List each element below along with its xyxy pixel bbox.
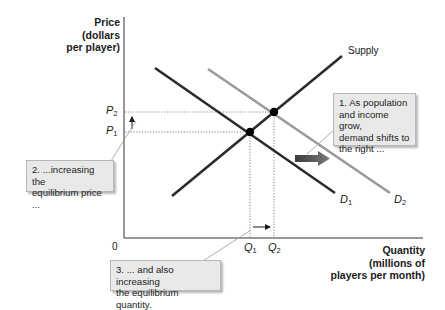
callout-line: demand shifts to xyxy=(339,132,410,144)
q2-letter: Q xyxy=(268,241,277,253)
y-title-line: (dollars xyxy=(58,29,120,42)
p1-sub: 1 xyxy=(113,129,117,138)
d2-label: D2 xyxy=(394,193,406,207)
callout-line: 1. As population xyxy=(339,97,410,109)
d2-sub: 2 xyxy=(402,198,406,207)
demand-shift-arrow xyxy=(295,151,330,166)
callout-quantity-increase: 3. ... and also increasing the equilibri… xyxy=(110,260,221,291)
supply-curve xyxy=(172,56,342,196)
q2-label: Q2 xyxy=(268,241,281,255)
p2-label: P2 xyxy=(106,104,118,118)
d1-label: D1 xyxy=(340,193,352,207)
callout-line: and income grow, xyxy=(339,109,410,132)
d1-letter: D xyxy=(340,193,348,205)
p1-label: P1 xyxy=(106,124,118,138)
d1-sub: 1 xyxy=(348,198,352,207)
callout-line: equilibrium price ... xyxy=(32,187,108,210)
callout-line: the equilibrium quantity. xyxy=(116,287,215,310)
q1-sub: 1 xyxy=(253,246,257,255)
callout-1-leader xyxy=(307,130,334,154)
callout-price-increase: 2. ...increasing the equilibrium price .… xyxy=(26,160,114,192)
callout-line: 3. ... and also increasing xyxy=(116,264,215,287)
y-title-line: Price xyxy=(58,16,120,29)
callout-line: 2. ...increasing the xyxy=(32,164,108,187)
x-title-line: players per month) xyxy=(323,269,425,282)
y-axis-title: Price (dollars per player) xyxy=(58,16,120,54)
origin-label: 0 xyxy=(112,241,118,252)
q1-label: Q1 xyxy=(244,241,257,255)
x-axis-title: Quantity (millions of players per month) xyxy=(323,244,425,282)
equilibrium-point-1 xyxy=(246,128,254,136)
d2-letter: D xyxy=(394,193,402,205)
d1-curve xyxy=(155,68,335,193)
q2-sub: 2 xyxy=(277,246,281,255)
y-title-line: per player) xyxy=(58,41,120,54)
callout-line: the right ... xyxy=(339,143,410,155)
x-title-line: (millions of xyxy=(323,257,425,270)
p2-sub: 2 xyxy=(113,109,117,118)
q1-letter: Q xyxy=(244,241,253,253)
supply-label: Supply xyxy=(348,45,379,56)
callout-demand-shift: 1. As population and income grow, demand… xyxy=(333,93,416,146)
x-title-line: Quantity xyxy=(323,244,425,257)
equilibrium-point-2 xyxy=(270,108,278,116)
